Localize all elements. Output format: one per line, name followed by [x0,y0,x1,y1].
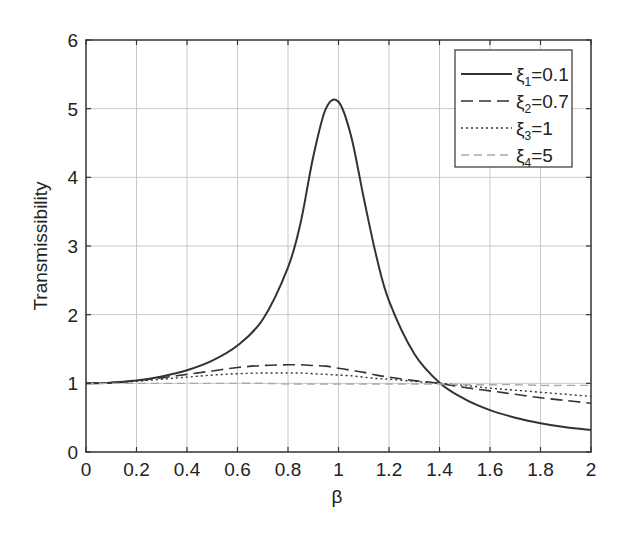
x-axis-title: β [332,486,343,507]
x-tick-label: 0.2 [123,459,149,480]
y-tick-label: 4 [67,167,78,188]
y-tick-label: 2 [67,305,78,326]
x-tick-label: 2 [586,459,597,480]
y-tick-label: 5 [67,99,78,120]
x-tick-label: 1 [333,459,344,480]
transmissibility-chart: 00.20.40.60.811.21.41.61.82 0123456 β Tr… [0,0,627,536]
y-tick-label: 6 [67,30,78,51]
y-axis-title: Transmissibility [30,181,51,311]
y-tick-label: 0 [67,442,78,463]
x-tick-label: 1.4 [426,459,453,480]
y-tick-label: 1 [67,373,78,394]
legend: ξ1=0.1ξ2=0.7ξ3=1ξ4=5 [455,50,572,170]
y-tick-label: 3 [67,236,78,257]
x-tick-label: 1.8 [527,459,553,480]
y-tick-labels: 0123456 [67,30,78,463]
x-tick-label: 1.6 [477,459,503,480]
x-tick-label: 0.8 [275,459,301,480]
x-tick-label: 0 [81,459,92,480]
x-tick-label: 0.6 [224,459,250,480]
x-tick-label: 1.2 [376,459,402,480]
x-tick-labels: 00.20.40.60.811.21.41.61.82 [81,459,597,480]
x-tick-label: 0.4 [174,459,201,480]
